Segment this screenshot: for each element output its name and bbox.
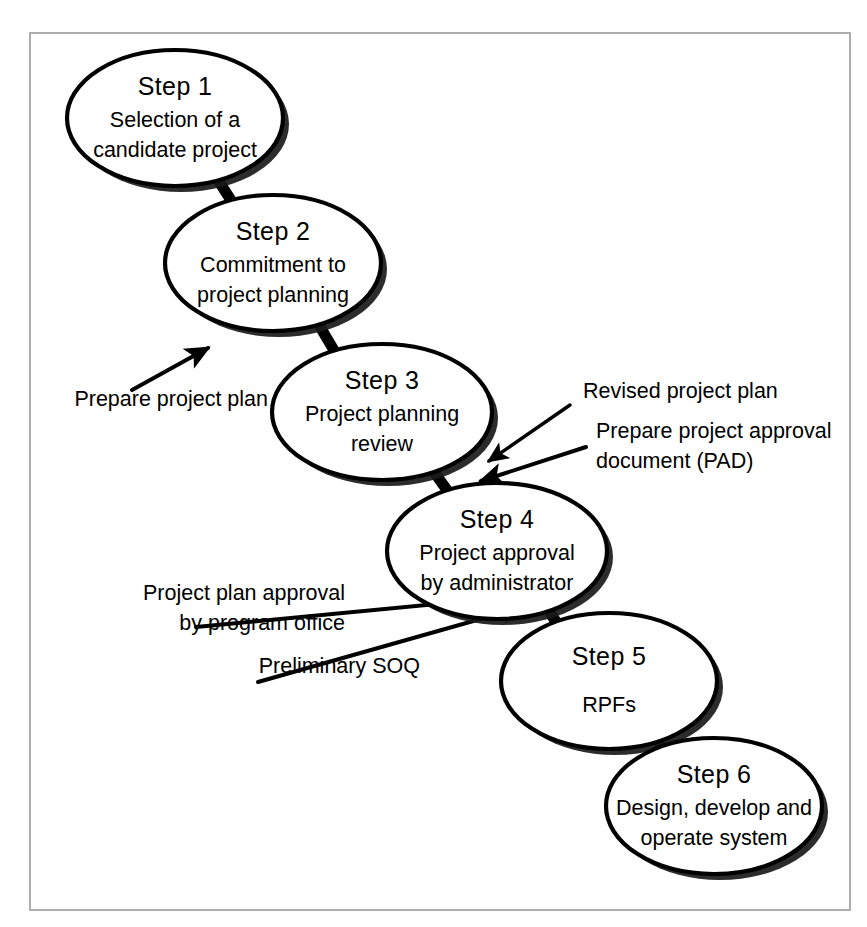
node-step-2-line-1: Commitment to bbox=[200, 253, 346, 277]
node-step-1-line-2: candidate project bbox=[93, 138, 257, 162]
annotation-prepare-pad-line-2: document (PAD) bbox=[596, 449, 753, 473]
node-step-6-title: Step 6 bbox=[677, 760, 752, 788]
annotation-preliminary-soq: Preliminary SOQ bbox=[259, 654, 420, 678]
annotation-prepare-pad-line-1: Prepare project approval bbox=[596, 419, 831, 443]
annotation-prepare-project-plan: Prepare project plan bbox=[74, 387, 268, 411]
flowchart-diagram: Step 1 Selection of a candidate project … bbox=[0, 0, 867, 927]
node-step-4-title: Step 4 bbox=[460, 505, 535, 533]
annotation-project-plan-approval-line-2: by program office bbox=[179, 611, 345, 635]
node-step-2-title: Step 2 bbox=[236, 217, 311, 245]
node-step-5-ellipse bbox=[501, 613, 717, 749]
annotation-revised-project-plan: Revised project plan bbox=[583, 379, 778, 403]
node-step-3-line-2: review bbox=[351, 432, 414, 456]
node-step-5-line-1: RPFs bbox=[582, 693, 636, 717]
node-step-1-title: Step 1 bbox=[138, 72, 213, 100]
node-step-1-line-1: Selection of a bbox=[110, 108, 240, 132]
annotation-project-plan-approval-line-1: Project plan approval bbox=[143, 581, 345, 605]
node-step-4-line-2: by administrator bbox=[421, 571, 574, 595]
flowchart-canvas: Step 1 Selection of a candidate project … bbox=[0, 0, 867, 927]
node-step-4-line-1: Project approval bbox=[419, 541, 574, 565]
node-step-5-title: Step 5 bbox=[572, 642, 647, 670]
node-step-3-line-1: Project planning bbox=[305, 402, 459, 426]
node-step-2-line-2: project planning bbox=[197, 283, 349, 307]
node-step-6-line-2: operate system bbox=[641, 826, 788, 850]
node-step-3-title: Step 3 bbox=[345, 366, 420, 394]
node-step-6-line-1: Design, develop and bbox=[616, 796, 812, 820]
